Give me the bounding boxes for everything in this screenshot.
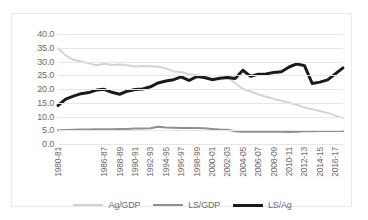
x-axis-tick-label: 2014-15 xyxy=(315,147,325,177)
x-axis-tick-label: 2000-01 xyxy=(207,147,217,177)
gridline xyxy=(58,75,343,76)
chart-legend: Ag/GDPLS/GDPLS/Ag xyxy=(12,196,353,214)
legend-item-ls-ag[interactable]: LS/Ag xyxy=(233,200,292,210)
legend-swatch xyxy=(153,204,183,206)
x-axis-tick-label: 1996-97 xyxy=(176,147,186,177)
series-line-ag-gdp xyxy=(58,48,343,118)
x-axis-tick-label: 1990-91 xyxy=(130,147,140,177)
gridline xyxy=(58,48,343,49)
legend-label: LS/GDP xyxy=(188,200,220,210)
y-axis-tick-label: 25.0 xyxy=(37,70,54,80)
gridline xyxy=(58,117,343,118)
gridline xyxy=(58,103,343,104)
gridline xyxy=(58,62,343,63)
x-axis-tick-label: 2008-09 xyxy=(269,147,279,177)
legend-item-ls-gdp[interactable]: LS/GDP xyxy=(153,200,220,210)
x-axis-tick-label: 2012-13 xyxy=(299,147,309,177)
chart-frame: 0.05.010.015.020.025.030.035.040.0 1980-… xyxy=(11,13,352,207)
legend-label: Ag/GDP xyxy=(108,200,140,210)
gridline xyxy=(58,34,343,35)
y-axis-tick-label: 20.0 xyxy=(37,84,54,94)
y-axis-tick-label: 35.0 xyxy=(37,43,54,53)
x-axis-tick-label: 2006-07 xyxy=(253,147,263,177)
x-axis-labels: 1980-811986-871988-891990-911992-931994-… xyxy=(58,147,343,199)
gridline xyxy=(58,130,343,131)
y-axis-tick-label: 5.0 xyxy=(42,125,54,135)
legend-swatch xyxy=(73,204,103,206)
x-axis-tick-label: 2002-03 xyxy=(222,147,232,177)
y-axis-tick-label: 15.0 xyxy=(37,98,54,108)
y-axis-labels: 0.05.010.015.020.025.030.035.040.0 xyxy=(12,34,54,144)
gridline xyxy=(58,144,343,145)
x-axis-tick-label: 1998-99 xyxy=(192,147,202,177)
x-axis-tick-label: 1980-81 xyxy=(53,147,63,177)
plot-area xyxy=(58,34,343,144)
series-line-ls-ag xyxy=(58,64,343,106)
gridline xyxy=(58,89,343,90)
x-axis-tick-label: 2010-11 xyxy=(284,147,294,176)
legend-label: LS/Ag xyxy=(268,200,292,210)
x-axis-tick-label: 1986-87 xyxy=(99,147,109,177)
y-axis-tick-label: 30.0 xyxy=(37,57,54,67)
x-axis-tick-label: 1988-89 xyxy=(115,147,125,177)
y-axis-tick-label: 10.0 xyxy=(37,112,54,122)
legend-swatch xyxy=(233,204,263,207)
y-axis-tick-label: 40.0 xyxy=(37,29,54,39)
x-axis-tick-label: 2004-05 xyxy=(238,147,248,177)
legend-item-ag-gdp[interactable]: Ag/GDP xyxy=(73,200,140,210)
x-axis-tick-label: 1992-93 xyxy=(145,147,155,177)
x-axis-tick-label: 1994-95 xyxy=(161,147,171,177)
x-axis-tick-label: 2016-17 xyxy=(330,147,340,177)
